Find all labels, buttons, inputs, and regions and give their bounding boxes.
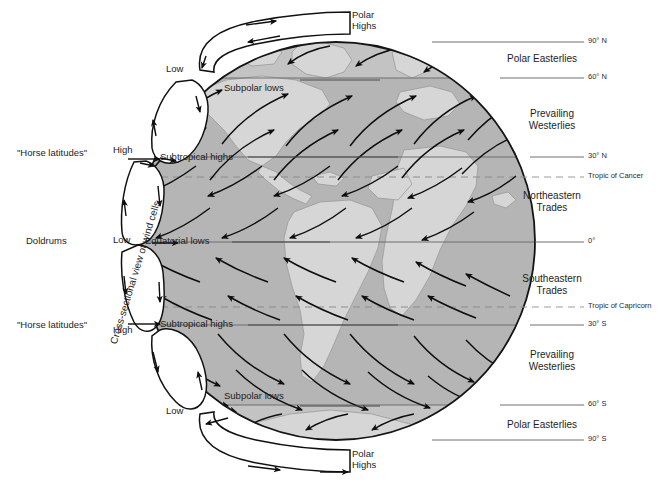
lat-label-tropic-of-capricorn: Tropic of Capricorn <box>588 301 652 310</box>
lat-label-tropic-of-cancer: Tropic of Cancer <box>588 171 643 180</box>
label-high-north: High <box>113 145 133 156</box>
lat-label-60n: 60° N <box>588 72 607 81</box>
wind-circulation-diagram: Polar Highs Polar Highs Low High Low Hig… <box>0 0 672 484</box>
label-prevailing-westerlies-south: Prevailing Westerlies <box>490 349 614 372</box>
lat-label-30s: 30° S <box>588 319 606 328</box>
label-low-north: Low <box>166 64 183 75</box>
label-subtropical-highs-south: Subtropical highs <box>160 319 233 330</box>
lat-label-60s: 60° S <box>588 399 606 408</box>
label-horse-latitudes-north: "Horse latitudes" <box>17 148 87 159</box>
label-low-equatorial: Low <box>113 235 130 246</box>
lat-label-0: 0° <box>588 236 595 245</box>
globe-layer <box>0 0 672 484</box>
label-subtropical-highs-north: Subtropical highs <box>160 152 233 163</box>
lat-label-90s: 90° S <box>588 434 606 443</box>
label-polar-highs-south: Polar Highs <box>352 449 376 471</box>
label-prevailing-westerlies-north: Prevailing Westerlies <box>490 108 614 131</box>
lat-label-30n: 30° N <box>588 151 607 160</box>
label-northeastern-trades: Northeastern Trades <box>490 190 614 213</box>
label-horse-latitudes-south: "Horse latitudes" <box>17 320 87 331</box>
label-low-south: Low <box>166 406 183 417</box>
lat-label-90n: 90° N <box>588 36 607 45</box>
cell-arrow-hadley-s-right <box>159 282 160 302</box>
label-subpolar-lows-south: Subpolar lows <box>224 391 284 402</box>
label-polar-easterlies-north: Polar Easterlies <box>470 53 614 65</box>
label-polar-easterlies-south: Polar Easterlies <box>470 419 614 431</box>
label-equatorial-lows: Equatorial lows <box>145 236 209 247</box>
label-southeastern-trades: Southeastern Trades <box>490 273 614 296</box>
label-subpolar-lows-north: Subpolar lows <box>224 83 284 94</box>
label-doldrums: Doldrums <box>26 236 67 247</box>
label-polar-highs-north: Polar Highs <box>352 10 376 32</box>
